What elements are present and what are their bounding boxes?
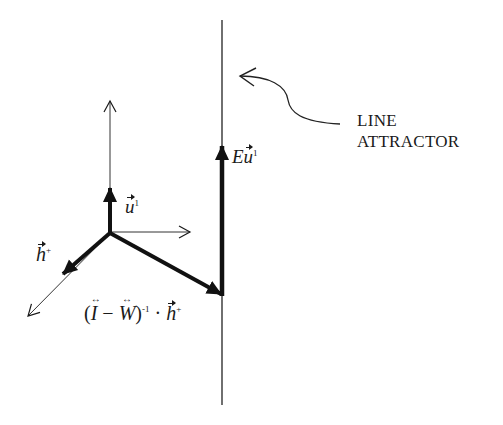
projection-label: (I − W)-1 · h+ [84, 302, 181, 325]
u-vector-label: u1 [125, 196, 139, 218]
minus-sign: − [97, 302, 118, 324]
projection-vector-arrow-icon [110, 233, 221, 294]
eu-superscript: 1 [253, 148, 258, 158]
dot-operator: · [149, 302, 166, 324]
line-attractor-label: LINE ATTRACTOR [357, 110, 460, 152]
line-attractor-label-line2: ATTRACTOR [357, 131, 460, 152]
diagram-canvas [0, 0, 503, 425]
u-superscript: 1 [135, 198, 140, 208]
u-symbol: u [125, 196, 135, 218]
eu-vector-label: Eu1 [232, 146, 258, 168]
weight-matrix-symbol: W [119, 302, 136, 325]
h-vector-label: h+ [36, 243, 51, 266]
close-paren: ) [135, 302, 142, 324]
eu-u-symbol: u [244, 146, 254, 168]
h-vector-arrow-icon [63, 233, 110, 274]
projection-h-symbol: h [166, 302, 176, 325]
open-paren: ( [84, 302, 91, 324]
line-attractor-label-line1: LINE [357, 110, 460, 131]
e-symbol: E [232, 146, 244, 167]
pointer-arrow-icon [240, 76, 340, 124]
projection-h-superscript: + [176, 304, 181, 314]
identity-matrix-symbol: I [91, 302, 98, 325]
h-symbol: h [36, 243, 46, 266]
h-superscript: + [46, 245, 51, 255]
